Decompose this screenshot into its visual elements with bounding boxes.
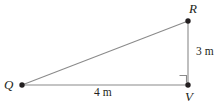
measure-label-vertical: 3 m	[196, 46, 214, 58]
vertex-dot-r	[185, 18, 190, 23]
geometry-figure: R Q V 3 m 4 m	[0, 0, 221, 109]
measure-label-horizontal: 4 m	[94, 87, 112, 99]
vertex-dot-q	[19, 82, 24, 87]
vertex-label-v: V	[185, 90, 193, 103]
vertex-dot-v	[185, 82, 190, 87]
right-angle-marker	[180, 76, 187, 83]
side-qr-line	[22, 21, 188, 85]
vertex-label-q: Q	[4, 78, 13, 91]
vertex-label-r: R	[189, 2, 197, 15]
